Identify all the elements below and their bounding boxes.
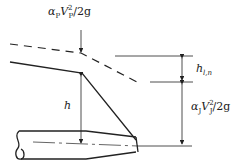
- head-label: h: [64, 100, 71, 111]
- diagram-lines: [0, 0, 245, 168]
- nozzle-energy-diagram: αPV2P/2g hl,n αJV2J/2g h: [0, 0, 245, 168]
- head-loss-label: hl,n: [196, 63, 212, 74]
- hydraulic-grade-line: [10, 62, 136, 140]
- nozzle-centerline: [33, 142, 138, 146]
- energy-grade-line: [10, 44, 137, 82]
- approach-velocity-head-label: αPV2P/2g: [48, 6, 91, 17]
- jet-velocity-head-label: αJV2J/2g: [191, 101, 230, 112]
